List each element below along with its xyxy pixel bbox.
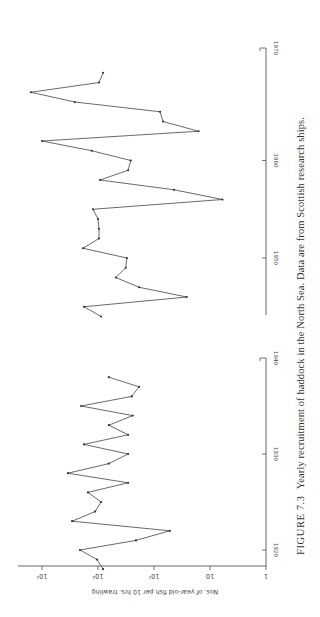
data-point	[79, 549, 81, 551]
data-point	[99, 179, 101, 181]
data-point	[102, 72, 104, 74]
data-point	[80, 405, 82, 407]
data-point	[67, 472, 69, 474]
data-point	[131, 395, 133, 397]
series-line	[31, 73, 223, 317]
data-point	[100, 315, 102, 317]
data-point	[82, 247, 84, 249]
year-tick-label: 1970	[273, 41, 279, 55]
value-tick-label: 10	[206, 572, 214, 580]
data-point	[91, 150, 93, 152]
data-point	[162, 120, 164, 122]
data-point	[127, 169, 129, 171]
data-point	[100, 501, 102, 503]
y-axis-label: Nos. of year-old fish per 10 hrs. trawli…	[92, 589, 219, 596]
data-point	[125, 267, 127, 269]
year-tick-label: 1930	[273, 447, 279, 461]
data-point	[71, 520, 73, 522]
data-lines	[30, 72, 224, 571]
data-point	[130, 159, 132, 161]
data-point	[173, 189, 175, 191]
year-tick-label: 1940	[273, 351, 279, 365]
figure-caption: FIGURE 7.3Yearly recruitment of haddock …	[295, 117, 306, 555]
data-point	[197, 130, 199, 132]
data-point	[108, 424, 110, 426]
haddock-recruitment-chart: 11010²10³10⁴192019301940195019601970	[0, 0, 320, 617]
series-line	[68, 377, 170, 569]
data-point	[41, 140, 43, 142]
data-point	[159, 111, 161, 113]
data-point	[98, 228, 100, 230]
axes	[18, 48, 266, 570]
data-point	[83, 306, 85, 308]
data-point	[186, 296, 188, 298]
value-tick-label: 10³	[92, 572, 103, 580]
year-tick-label: 1960	[273, 154, 279, 168]
data-point	[98, 81, 100, 83]
data-point	[74, 101, 76, 103]
data-point	[102, 568, 104, 570]
year-tick-label: 1950	[273, 251, 279, 265]
data-point	[92, 208, 94, 210]
data-point	[87, 491, 89, 493]
year-tick-label: 1920	[273, 543, 279, 557]
data-point	[138, 286, 140, 288]
data-point	[132, 415, 134, 417]
data-point	[126, 257, 128, 259]
tick-labels: 11010²10³10⁴192019301940195019601970	[36, 41, 279, 580]
data-point	[127, 434, 129, 436]
data-point	[94, 511, 96, 513]
data-point	[83, 443, 85, 445]
figure-number: FIGURE 7.3	[295, 495, 306, 555]
data-point	[169, 530, 171, 532]
data-point	[98, 237, 100, 239]
data-point	[115, 276, 117, 278]
data-point	[30, 91, 32, 93]
data-point	[138, 386, 140, 388]
data-point	[96, 559, 98, 561]
data-point	[108, 376, 110, 378]
data-point	[221, 198, 223, 200]
data-point	[127, 453, 129, 455]
data-point	[97, 218, 99, 220]
value-tick-label: 1	[264, 572, 268, 580]
caption-text: Yearly recruitment of haddock in the Nor…	[295, 117, 306, 489]
value-tick-label: 10⁴	[36, 572, 47, 580]
data-point	[108, 463, 110, 465]
data-point	[135, 539, 137, 541]
value-tick-label: 10²	[148, 572, 159, 580]
data-point	[127, 482, 129, 484]
